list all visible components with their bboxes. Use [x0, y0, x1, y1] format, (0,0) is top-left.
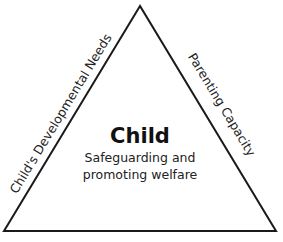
center-title: Child — [70, 124, 210, 148]
center-subtitle-line1: Safeguarding and — [70, 149, 210, 166]
center-subtitle-line2: promoting welfare — [70, 166, 210, 183]
